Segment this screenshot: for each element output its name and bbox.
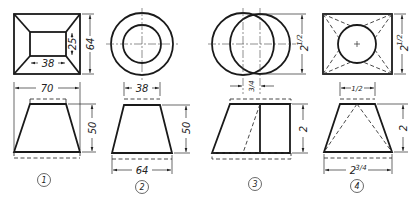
part-2: 38 50 64 2 bbox=[106, 8, 192, 194]
part-2-top-view: 38 bbox=[106, 8, 178, 96]
dim-64: 64 bbox=[136, 165, 149, 176]
dim-70: 70 bbox=[41, 83, 54, 94]
part-4-label: 4 bbox=[354, 182, 359, 191]
part-2-front-view: 50 64 bbox=[112, 99, 192, 176]
part-1-front-view: 70 50 bbox=[14, 82, 98, 158]
part-4-top-view: 2 1/2 1/2 bbox=[323, 14, 410, 96]
part-4-front-view: 2 2 3/4 bbox=[324, 99, 409, 176]
dim-frac-3-4: 3/4 bbox=[355, 164, 366, 172]
dim-frac-1-2: 1/2 bbox=[396, 34, 404, 46]
dim-50: 50 bbox=[181, 122, 192, 135]
dim-38: 38 bbox=[136, 83, 149, 94]
part-2-label: 2 bbox=[139, 183, 144, 192]
part-1-top-view: 64 25 38 bbox=[14, 14, 96, 74]
part-3-front-view: 2 bbox=[212, 99, 309, 159]
dim-2: 2 bbox=[298, 126, 309, 132]
dim-64: 64 bbox=[85, 38, 96, 51]
dim-1-2: 1/2 bbox=[351, 85, 363, 93]
part-3: 2 1/2 3/4 2 3 bbox=[208, 8, 310, 191]
technical-drawing: 64 25 38 70 bbox=[0, 0, 417, 204]
part-1: 64 25 38 70 bbox=[14, 14, 98, 187]
part-3-top-view: 2 1/2 3/4 bbox=[208, 8, 310, 94]
dim-2: 2 bbox=[398, 125, 409, 131]
part-4: 2 1/2 1/2 2 2 3/4 bbox=[323, 14, 410, 193]
part-1-label: 1 bbox=[41, 176, 46, 185]
dim-frac-1-2: 1/2 bbox=[296, 34, 304, 46]
dim-38: 38 bbox=[42, 58, 55, 69]
dim-25: 25 bbox=[67, 38, 78, 51]
dim-3-4: 3/4 bbox=[248, 80, 256, 91]
part-3-label: 3 bbox=[252, 180, 257, 189]
dim-50: 50 bbox=[87, 122, 98, 135]
